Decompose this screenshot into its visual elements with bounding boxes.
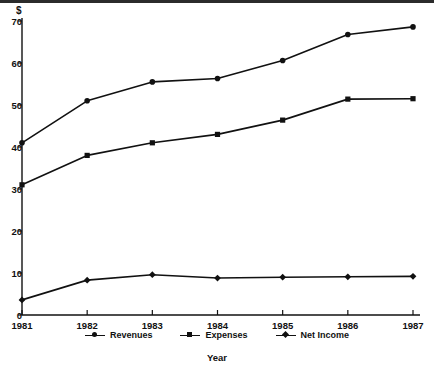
data-point-marker (410, 24, 416, 30)
data-point-marker (345, 32, 351, 38)
data-point-marker (149, 271, 156, 278)
data-point-marker (279, 274, 286, 281)
data-point-marker (345, 97, 350, 102)
top-border-rule (0, 0, 434, 3)
series-line-revenues (22, 27, 413, 143)
data-point-marker (85, 153, 90, 158)
legend-marker-icon (276, 330, 296, 340)
legend-label: Net Income (301, 330, 350, 340)
legend-item: Net Income (276, 330, 350, 340)
y-tick-label: 70 (0, 17, 22, 26)
plot-area (0, 0, 434, 370)
x-tick-label: 1987 (393, 321, 433, 330)
data-point-marker (215, 76, 221, 82)
data-point-marker (410, 96, 415, 101)
legend-item: Expenses (180, 330, 247, 340)
x-tick-label: 1983 (132, 321, 172, 330)
y-tick-label: 20 (0, 227, 22, 236)
x-tick-label: 1981 (2, 321, 42, 330)
y-tick-label: 10 (0, 269, 22, 278)
data-point-marker (214, 275, 221, 282)
legend-item: Revenues (85, 330, 153, 340)
x-tick-label: 1985 (263, 321, 303, 330)
legend-label: Expenses (205, 330, 247, 340)
x-axis-title: Year (0, 352, 434, 363)
legend-marker-icon (180, 330, 200, 340)
x-tick-label: 1982 (67, 321, 107, 330)
data-point-marker (410, 273, 417, 280)
data-point-marker (150, 79, 156, 85)
x-tick-label: 1984 (198, 321, 238, 330)
data-point-marker (280, 118, 285, 123)
data-point-marker (84, 98, 90, 104)
legend-marker-icon (85, 330, 105, 340)
y-tick-label: 60 (0, 59, 22, 68)
data-point-marker (344, 273, 351, 280)
data-point-marker (150, 140, 155, 145)
y-tick-label: 50 (0, 101, 22, 110)
chart-legend: RevenuesExpensesNet Income (0, 330, 434, 340)
legend-label: Revenues (110, 330, 153, 340)
line-chart: $ 010203040506070 1981198219831984198519… (0, 0, 434, 370)
y-tick-label: 40 (0, 143, 22, 152)
data-point-marker (215, 132, 220, 137)
y-axis-title: $ (16, 5, 22, 16)
y-tick-label: 30 (0, 185, 22, 194)
data-point-marker (84, 277, 91, 284)
y-tick-label: 0 (0, 311, 22, 320)
x-tick-label: 1986 (328, 321, 368, 330)
series-line-expenses (22, 99, 413, 185)
data-point-marker (280, 58, 286, 64)
data-point-marker (19, 296, 26, 303)
